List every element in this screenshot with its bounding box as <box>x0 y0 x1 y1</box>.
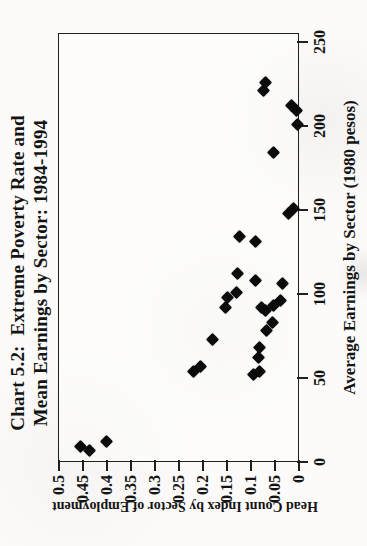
y-tick-mark <box>250 460 252 471</box>
x-tick-mark <box>297 377 308 379</box>
y-tick-mark <box>274 460 276 471</box>
chart-title-line-1: Chart 5.2: Extreme Poverty Rate and <box>6 0 29 546</box>
x-tick-mark <box>297 41 308 43</box>
y-tick-mark <box>82 460 84 471</box>
y-tick-mark <box>202 460 204 471</box>
y-tick-mark <box>58 460 60 471</box>
y-tick-mark <box>178 460 180 471</box>
scanned-chart-page: Chart 5.2: Extreme Poverty Rate and Mean… <box>0 0 367 546</box>
chart-title: Chart 5.2: Extreme Poverty Rate and Mean… <box>6 0 52 546</box>
plot-area <box>58 33 299 462</box>
chart-title-line-2: Mean Earnings by Sector: 1984-1994 <box>29 0 52 546</box>
x-tick-label: 150 <box>311 180 329 240</box>
x-tick-label: 50 <box>311 348 329 408</box>
y-tick-mark <box>154 460 156 471</box>
y-tick-mark <box>106 460 108 471</box>
y-axis-title: Head Count Index by Sector of Employment <box>47 496 323 514</box>
rotated-chart-canvas: Chart 5.2: Extreme Poverty Rate and Mean… <box>0 0 367 546</box>
x-tick-label: 250 <box>311 12 329 72</box>
x-tick-label: 200 <box>311 96 329 156</box>
y-tick-mark <box>298 460 300 471</box>
y-tick-mark <box>226 460 228 471</box>
x-tick-label: 100 <box>311 264 329 324</box>
x-tick-label: 0 <box>311 432 329 492</box>
x-tick-mark <box>297 293 308 295</box>
x-axis-title: Average Earnings by Sector (1980 pesos) <box>340 67 360 428</box>
y-tick-mark <box>130 460 132 471</box>
